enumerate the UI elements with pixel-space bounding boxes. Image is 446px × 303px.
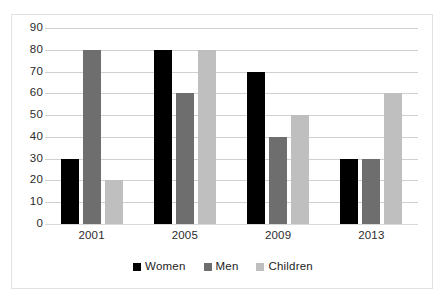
x-tick-label: 2001 [78, 230, 104, 242]
y-axis: 0102030405060708090 [12, 28, 43, 224]
y-tick-label: 50 [30, 109, 43, 121]
y-tick-label: 10 [30, 196, 43, 208]
bar-chart-figure: 0102030405060708090 2001200520092013 Wom… [11, 14, 433, 289]
bar-women-2013 [340, 159, 358, 224]
x-tick-label: 2013 [358, 230, 384, 242]
plot-area [45, 28, 418, 224]
bar-children-2009 [291, 115, 309, 224]
bar-children-2001 [105, 180, 123, 224]
bar-children-2013 [384, 93, 402, 224]
bar-women-2005 [154, 50, 172, 224]
bar-women-2009 [247, 72, 265, 224]
legend-swatch-icon [256, 263, 264, 271]
legend-label: Women [145, 261, 185, 273]
bar-children-2005 [198, 50, 216, 224]
bar-men-2005 [176, 93, 194, 224]
gridline-0 [45, 224, 418, 225]
legend-item-men[interactable]: Men [204, 261, 239, 273]
x-tick-label: 2009 [265, 230, 291, 242]
legend-swatch-icon [133, 263, 141, 271]
y-tick-label: 90 [30, 22, 43, 34]
legend-item-women[interactable]: Women [133, 261, 185, 273]
bar-women-2001 [61, 159, 79, 224]
y-tick-label: 80 [30, 44, 43, 56]
y-tick-label: 0 [36, 218, 43, 230]
y-tick-label: 40 [30, 131, 43, 143]
bar-group [61, 28, 123, 224]
y-tick-label: 30 [30, 153, 43, 165]
y-tick-label: 70 [30, 66, 43, 78]
y-tick-label: 60 [30, 88, 43, 100]
legend-label: Men [216, 261, 239, 273]
legend-label: Children [268, 261, 312, 273]
x-tick-label: 2005 [172, 230, 198, 242]
bar-men-2013 [362, 159, 380, 224]
legend-item-children[interactable]: Children [256, 261, 312, 273]
bar-men-2009 [269, 137, 287, 224]
chart-legend: WomenMenChildren [12, 261, 434, 273]
bar-group [154, 28, 216, 224]
bar-group [340, 28, 402, 224]
y-tick-label: 20 [30, 175, 43, 187]
legend-swatch-icon [204, 263, 212, 271]
bar-group [247, 28, 309, 224]
x-axis: 2001200520092013 [45, 230, 418, 248]
bar-men-2001 [83, 50, 101, 224]
